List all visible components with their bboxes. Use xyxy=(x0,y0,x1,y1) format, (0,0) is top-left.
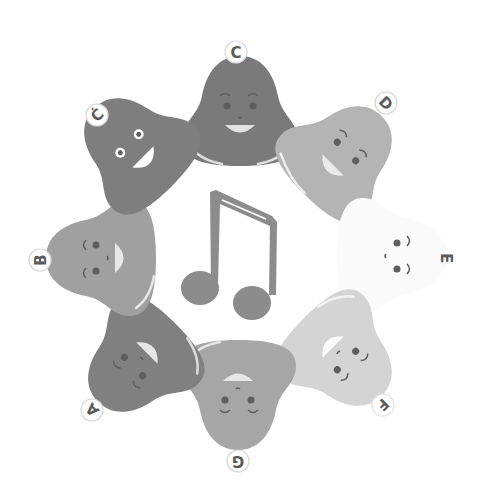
svg-text:E: E xyxy=(437,253,455,263)
svg-text:C: C xyxy=(230,44,241,62)
bell-d xyxy=(263,75,423,235)
bell-b xyxy=(46,200,156,316)
double-eighth-note-icon xyxy=(181,190,277,320)
label-c: C xyxy=(225,41,247,63)
svg-text:G: G xyxy=(232,452,244,470)
bell-ring-illustration: C D E F G A B Ċ xyxy=(0,0,480,503)
svg-text:B: B xyxy=(32,254,50,265)
label-g: G xyxy=(227,450,249,472)
label-e: E xyxy=(437,253,455,263)
bell-high-c xyxy=(53,67,213,227)
label-b: B xyxy=(29,249,51,271)
